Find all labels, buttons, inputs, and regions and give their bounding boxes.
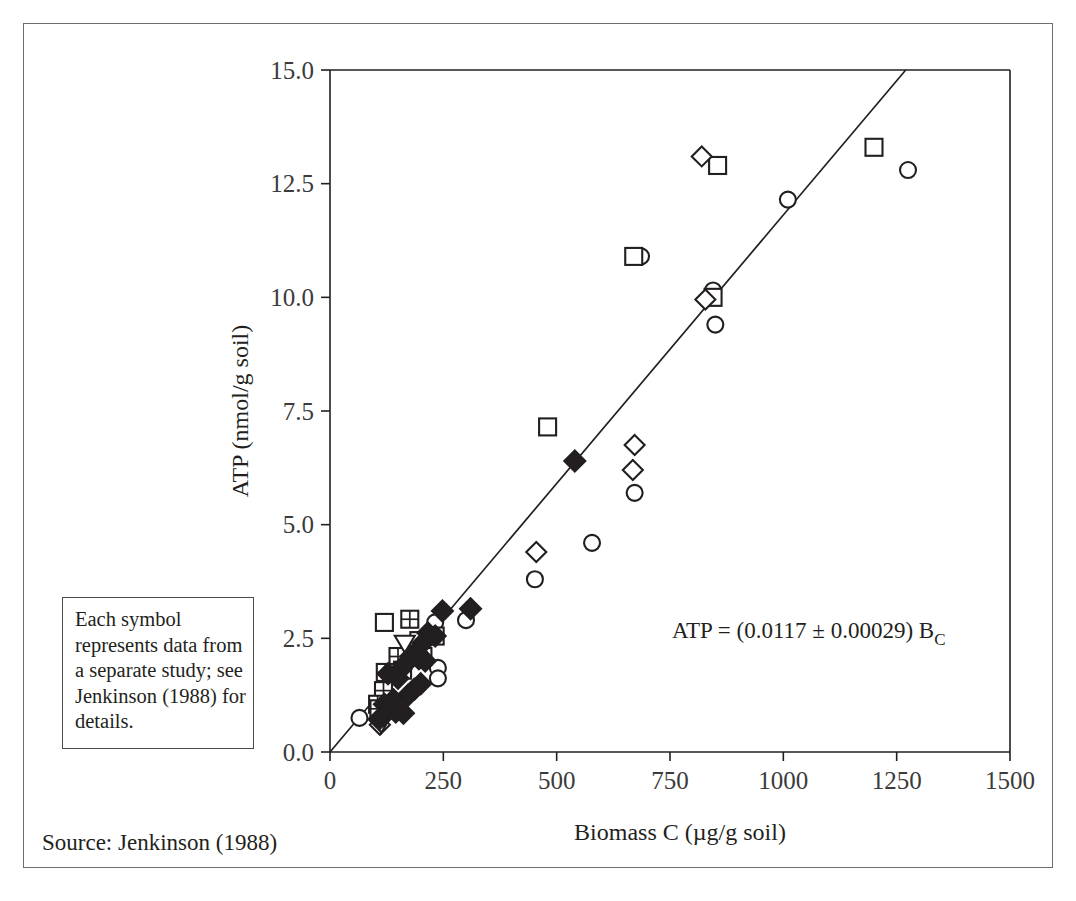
data-points-group [351, 139, 916, 735]
y-tick-label: 10.0 [270, 284, 314, 311]
data-point-open-square [376, 614, 393, 631]
y-axis-title: ATP (nmol/g soil) [227, 325, 253, 497]
data-point-open-square [709, 157, 726, 174]
equation-annotation: ATP = (0.0117 ± 0.00029) BC [672, 618, 946, 649]
data-point-open-square [625, 248, 642, 265]
data-point-open-diamond [526, 542, 546, 562]
data-point-open-circle [780, 192, 796, 208]
x-tick-label: 250 [425, 767, 463, 794]
y-tick-label: 2.5 [283, 625, 314, 652]
y-tick-label: 0.0 [283, 739, 314, 766]
x-tick-label: 750 [651, 767, 689, 794]
scatter-plot-svg: 0.02.55.07.510.012.515.00250500750100012… [0, 0, 1076, 901]
source-note: Source: Jenkinson (1988) [42, 830, 277, 856]
note-box-text: Each symbol represents data from a separ… [75, 607, 247, 735]
data-point-open-diamond [625, 435, 645, 455]
y-tick-label: 5.0 [283, 511, 314, 538]
x-tick-label: 1000 [758, 767, 808, 794]
x-tick-label: 500 [538, 767, 576, 794]
y-tick-label: 7.5 [283, 398, 314, 425]
y-tick-label: 15.0 [270, 57, 314, 84]
x-tick-label: 0 [324, 767, 337, 794]
data-point-open-circle [527, 571, 543, 587]
x-tick-label: 1500 [985, 767, 1035, 794]
data-point-open-square [539, 418, 556, 435]
note-box: Each symbol represents data from a separ… [62, 597, 254, 749]
data-point-open-diamond [623, 460, 643, 480]
data-point-open-square [866, 139, 883, 156]
data-point-open-circle [900, 162, 916, 178]
x-axis-title: Biomass C (µg/g soil) [574, 819, 786, 845]
y-tick-label: 12.5 [270, 170, 314, 197]
x-tick-label: 1250 [872, 767, 922, 794]
data-point-open-circle [351, 710, 367, 726]
data-point-open-circle [627, 485, 643, 501]
data-point-open-circle [584, 535, 600, 551]
data-point-open-circle [707, 317, 723, 333]
chart-canvas: 0.02.55.07.510.012.515.00250500750100012… [0, 0, 1076, 901]
